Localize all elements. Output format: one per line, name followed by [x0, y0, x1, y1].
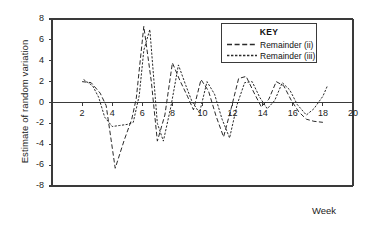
y-tick-label: 8: [18, 13, 44, 23]
legend-label-remainder-ii: Remainder (ii): [260, 40, 313, 50]
legend-label-remainder-iii: Remainder (iii): [260, 51, 315, 61]
x-tick-label: 14: [251, 108, 275, 118]
legend-title: KEY: [222, 27, 316, 37]
x-tick-label: 16: [281, 108, 305, 118]
legend-swatch-dashed-icon: [227, 41, 257, 48]
y-tick-label: -6: [18, 159, 44, 169]
y-tick-label: 6: [18, 34, 44, 44]
x-tick-label: 18: [311, 108, 335, 118]
x-tick-label: 12: [221, 108, 245, 118]
x-axis-label: Week: [312, 205, 336, 216]
x-tick-label: 8: [160, 108, 184, 118]
legend-entry-remainder-iii: Remainder (iii): [227, 50, 315, 61]
y-tick-label: 0: [18, 97, 44, 107]
y-tick-label: -4: [18, 138, 44, 148]
legend-swatch-dotted-icon: [227, 52, 257, 59]
legend-entry-remainder-ii: Remainder (ii): [227, 39, 313, 50]
x-tick-label: 10: [191, 108, 215, 118]
y-tick-label: -8: [18, 180, 44, 190]
y-tick-label: 4: [18, 55, 44, 65]
x-tick-label: 2: [70, 108, 94, 118]
y-tick-label: -2: [18, 117, 44, 127]
y-tick-label: 2: [18, 76, 44, 86]
x-tick-label: 4: [100, 108, 124, 118]
x-tick-label: 20: [341, 108, 365, 118]
chart-figure: Estimate of random variation Week 86420-…: [0, 0, 376, 225]
legend: KEY Remainder (ii) Remainder (iii): [221, 23, 317, 63]
x-tick-label: 6: [130, 108, 154, 118]
